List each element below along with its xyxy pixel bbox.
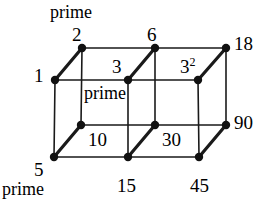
lbl-9: 32: [180, 57, 196, 76]
lbl-45: 45: [190, 176, 209, 195]
lattice-node-n30: [151, 121, 159, 129]
lattice-node-n45: [195, 153, 203, 161]
lattice-node-n1: [51, 76, 59, 84]
lattice-edge: [199, 125, 226, 157]
lbl-prime-mid: prime: [84, 84, 126, 102]
lattice-node-n6: [151, 44, 159, 52]
lattice-node-n18: [222, 44, 230, 52]
lattice-node-n5: [50, 153, 58, 161]
divisor-lattice-figure: prime26181332prime1030905prime1545: [0, 0, 260, 211]
lattice-node-n15: [124, 153, 132, 161]
lbl-1: 1: [34, 66, 44, 85]
lattice-node-n90: [222, 121, 230, 129]
lattice-edge: [128, 48, 155, 80]
lbl-3: 3: [112, 57, 122, 76]
lbl-10: 10: [88, 130, 107, 149]
lattice-edge: [55, 48, 82, 80]
lbl-15: 15: [117, 176, 136, 195]
lattice-edge: [81, 48, 82, 125]
lbl-90: 90: [234, 113, 253, 132]
lattice-node-n9: [194, 76, 202, 84]
lbl-5: 5: [34, 160, 44, 179]
lattice-edge: [54, 125, 81, 157]
lbl-prime-bot: prime: [2, 180, 44, 198]
lbl-2: 2: [72, 25, 82, 44]
lbl-9-base: 3: [180, 56, 190, 77]
lbl-6: 6: [147, 25, 157, 44]
lattice-node-n10: [77, 121, 85, 129]
edge-layer: [54, 48, 226, 157]
lbl-18: 18: [234, 34, 253, 53]
lattice-edge: [198, 48, 226, 80]
lbl-prime-top: prime: [50, 3, 92, 21]
lbl-9-exponent: 2: [190, 55, 196, 69]
lattice-node-n2: [78, 44, 86, 52]
lattice-edge: [54, 80, 55, 157]
lbl-30: 30: [162, 130, 181, 149]
lattice-edge: [198, 80, 199, 157]
lattice-edge: [128, 125, 155, 157]
